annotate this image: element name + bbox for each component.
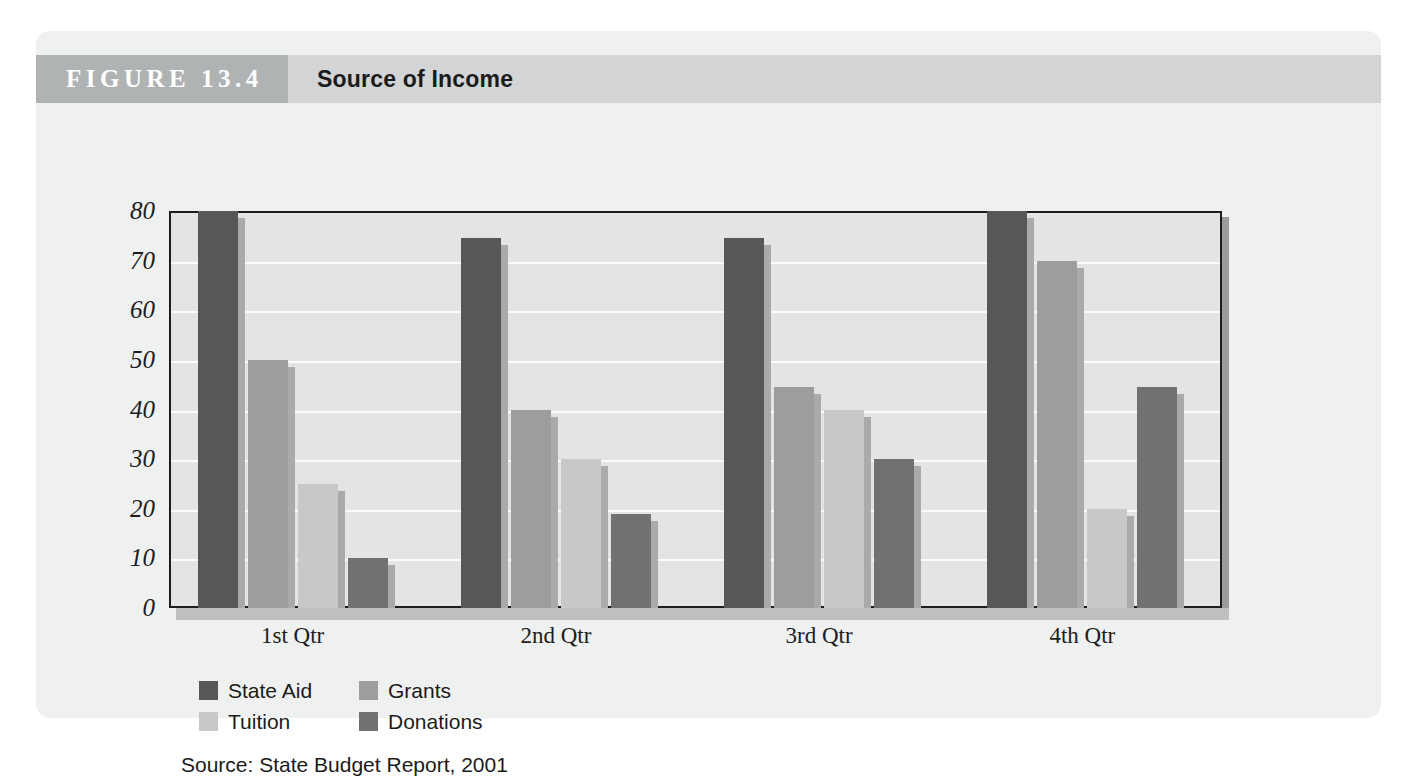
- legend-row: Tuition Donations: [199, 706, 619, 737]
- chart-container: 01020304050607080 1st Qtr2nd Qtr3rd Qtr4…: [36, 103, 1381, 718]
- legend-swatch-icon: [359, 681, 378, 700]
- y-axis-tick-label: 30: [130, 445, 155, 473]
- y-axis-tick-label: 70: [130, 247, 155, 275]
- legend-label: State Aid: [228, 679, 312, 703]
- x-axis-labels: 1st Qtr2nd Qtr3rd Qtr4th Qtr: [169, 623, 1222, 657]
- x-axis-tick-label: 4th Qtr: [1049, 623, 1115, 649]
- legend-row: State Aid Grants: [199, 675, 619, 706]
- y-axis-tick-label: 20: [130, 495, 155, 523]
- legend-swatch-icon: [199, 712, 218, 731]
- gridline: [171, 559, 1220, 561]
- x-axis-tick-label: 2nd Qtr: [520, 623, 591, 649]
- y-axis-tick-label: 40: [130, 396, 155, 424]
- y-axis-labels: 01020304050607080: [36, 103, 169, 718]
- legend-label: Grants: [388, 679, 451, 703]
- y-axis-tick-label: 10: [130, 544, 155, 572]
- figure-title: Source of Income: [288, 66, 513, 93]
- figure-number-tag: FIGURE 13.4: [36, 55, 288, 103]
- x-axis-tick-label: 3rd Qtr: [786, 623, 853, 649]
- gridline: [171, 510, 1220, 512]
- gridline: [171, 311, 1220, 313]
- gridline: [171, 262, 1220, 264]
- legend-label: Donations: [388, 710, 483, 734]
- legend-item-tuition: Tuition: [199, 710, 359, 734]
- gridline: [171, 411, 1220, 413]
- legend-label: Tuition: [228, 710, 290, 734]
- x-axis-shadow-strip: [176, 608, 1229, 620]
- y-axis-tick-label: 50: [130, 346, 155, 374]
- chart-legend: State Aid Grants Tuition Donations: [199, 675, 619, 737]
- legend-swatch-icon: [199, 681, 218, 700]
- gridlines: [171, 213, 1220, 606]
- gridline: [171, 460, 1220, 462]
- y-axis-tick-label: 80: [130, 197, 155, 225]
- gridline: [171, 361, 1220, 363]
- x-axis-tick-label: 1st Qtr: [261, 623, 324, 649]
- legend-swatch-icon: [359, 712, 378, 731]
- legend-item-grants: Grants: [359, 679, 451, 703]
- figure-card: FIGURE 13.4 Source of Income 01020304050…: [36, 31, 1381, 718]
- y-axis-tick-label: 0: [143, 594, 156, 622]
- source-note: Source: State Budget Report, 2001: [181, 753, 508, 777]
- legend-item-state-aid: State Aid: [199, 679, 359, 703]
- legend-item-donations: Donations: [359, 710, 483, 734]
- figure-header: FIGURE 13.4 Source of Income: [36, 55, 1381, 103]
- plot-area: [169, 211, 1222, 608]
- y-axis-tick-label: 60: [130, 296, 155, 324]
